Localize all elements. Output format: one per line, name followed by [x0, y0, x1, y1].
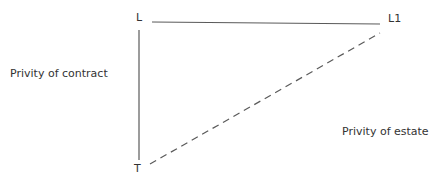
node-l1: L1	[388, 13, 401, 25]
edge-l-to-l1	[152, 22, 380, 24]
node-t: T	[134, 163, 141, 175]
edge-t-to-l1-dashed	[150, 33, 380, 164]
node-l: L	[136, 12, 142, 24]
label-privity-of-estate: Privity of estate	[342, 126, 429, 138]
diagram-lines	[0, 0, 434, 183]
label-privity-of-contract: Privity of contract	[10, 68, 108, 80]
